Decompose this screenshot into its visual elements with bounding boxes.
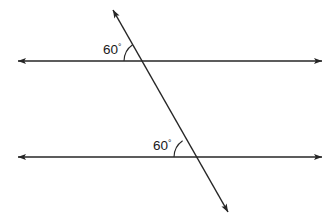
geometry-diagram: 60° 60° — [0, 0, 335, 223]
upper-angle-arc — [124, 45, 133, 61]
upper-angle-label: 60° — [103, 42, 121, 57]
lower-angle-label: 60° — [153, 138, 171, 153]
upper-angle-value: 60 — [103, 42, 118, 57]
geometry-canvas: 60° 60° — [0, 0, 335, 223]
lower-angle-value: 60 — [153, 138, 168, 153]
upper-angle-degree-symbol: ° — [118, 42, 121, 52]
lower-angle-degree-symbol: ° — [168, 138, 171, 148]
lower-angle-arc — [174, 141, 183, 157]
transversal-line — [113, 10, 228, 212]
